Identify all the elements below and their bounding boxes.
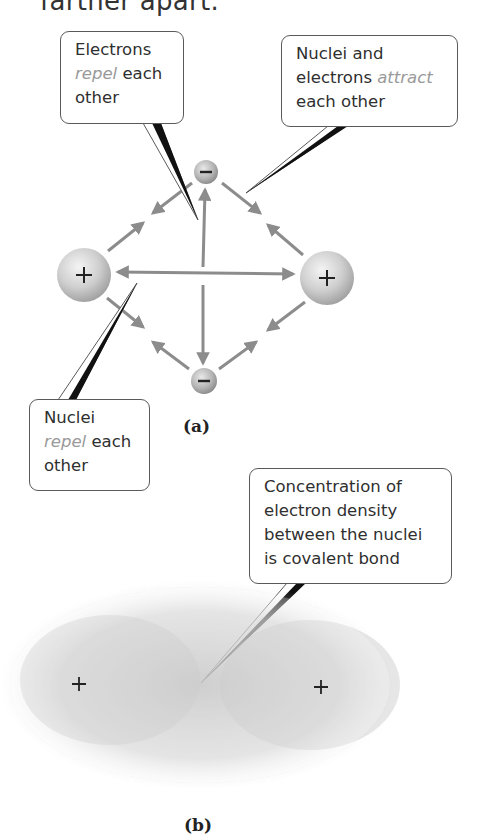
panel-b-label: (b) (184, 815, 212, 835)
panel-a-label: (a) (183, 416, 210, 436)
electron-bottom (191, 368, 217, 394)
callout-nuclei-electrons-attract: Nuclei and electrons attract each other (281, 35, 458, 127)
nuclei-repel-arrow (118, 272, 293, 274)
callout-electrons-repel: Electrons repel each other (60, 31, 184, 124)
electron-density-cloud (0, 580, 400, 790)
electron-top (194, 160, 218, 184)
nucleus-right (300, 251, 354, 305)
nucleus-left (57, 248, 111, 302)
electron-repel-arrow-up (203, 190, 205, 267)
callout-covalent-bond: Concentration of electron density betwee… (249, 468, 452, 584)
force-arrows (107, 183, 305, 369)
covalent-bond-figure: farther apart. (0, 0, 488, 838)
callout-nuclei-repel: Nuclei repel each other (29, 399, 150, 491)
